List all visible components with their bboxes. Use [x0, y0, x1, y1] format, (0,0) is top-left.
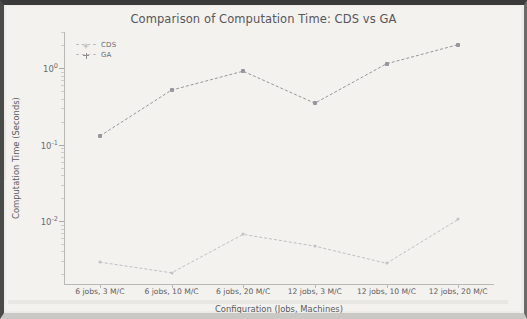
legend-item-cds: CDS: [76, 40, 138, 50]
data-point-ga: [385, 62, 389, 66]
x-tick-label: 12 jobs, 10 M/C: [357, 287, 416, 296]
series-line-ga: [100, 45, 458, 136]
data-point-ga: [170, 88, 174, 92]
y-tick-label: 10-1: [41, 139, 58, 151]
scanned-figure-page: Comparison of Computation Time: CDS vs G…: [0, 0, 527, 319]
data-point-cds: [98, 261, 101, 264]
plot-area: 10010-110-2 6 jobs, 3 M/C6 jobs, 10 M/C6…: [64, 32, 494, 284]
data-point-cds: [385, 262, 388, 265]
chart-title: Comparison of Computation Time: CDS vs G…: [6, 12, 521, 26]
y-tick-label: 10-2: [41, 215, 58, 227]
data-point-ga: [241, 69, 245, 73]
x-tick-label: 6 jobs, 20 M/C: [216, 287, 270, 296]
x-tick-label: 6 jobs, 3 M/C: [75, 287, 124, 296]
data-point-cds: [313, 245, 316, 248]
chart-legend: CDS GA: [76, 38, 138, 62]
x-axis-spine: [64, 284, 494, 285]
x-tick-label: 12 jobs, 20 M/C: [429, 287, 488, 296]
data-point-cds: [170, 271, 173, 274]
series-line-cds: [100, 219, 458, 272]
chart-figure: Comparison of Computation Time: CDS vs G…: [6, 6, 521, 311]
y-tick-label: 100: [43, 63, 58, 75]
y-axis-title: Computation Time (Seconds): [11, 97, 21, 219]
legend-item-ga: GA: [76, 50, 138, 60]
data-point-cds: [457, 218, 460, 221]
legend-label-ga: GA: [101, 51, 112, 59]
data-point-ga: [456, 43, 460, 47]
legend-line-cds: [76, 44, 96, 46]
x-tick-label: 12 jobs, 3 M/C: [288, 287, 342, 296]
data-point-cds: [242, 233, 245, 236]
legend-line-ga: [76, 54, 96, 56]
data-point-ga: [98, 134, 102, 138]
data-point-ga: [313, 101, 317, 105]
series-lines: [64, 32, 494, 284]
x-axis-title: Configuration (Jobs, Machines): [64, 304, 494, 314]
plus-marker-icon: [84, 43, 89, 48]
legend-label-cds: CDS: [101, 41, 116, 49]
star-marker-icon: [83, 53, 89, 59]
x-tick-label: 6 jobs, 10 M/C: [144, 287, 198, 296]
